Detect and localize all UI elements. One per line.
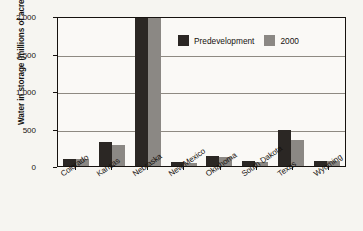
- bar-group: [94, 18, 130, 166]
- chart-figure: Water in storage (millions of acre-feet)…: [0, 0, 363, 231]
- bar-group: [130, 18, 166, 166]
- bar: [148, 18, 161, 166]
- y-tick-label: 500: [0, 125, 36, 134]
- y-tick-label: 0: [0, 163, 36, 172]
- bar: [135, 18, 148, 166]
- bar-group: [58, 18, 94, 166]
- legend-label: 2000: [280, 36, 298, 46]
- legend-item: 2000: [264, 35, 298, 46]
- y-tick-label: 1,500: [0, 50, 36, 59]
- bar-group: [309, 18, 345, 166]
- legend-label: Predevelopment: [194, 36, 254, 46]
- chart-legend: Predevelopment2000: [178, 35, 299, 46]
- legend-item: Predevelopment: [178, 35, 254, 46]
- x-axis-labels: ColoradoKansasNebraskaNew MexicoOklahoma…: [57, 167, 346, 231]
- y-tick-label: 1,000: [0, 88, 36, 97]
- legend-swatch-icon: [178, 35, 189, 46]
- legend-swatch-icon: [264, 35, 275, 46]
- y-tick-label: 2,000: [0, 13, 36, 22]
